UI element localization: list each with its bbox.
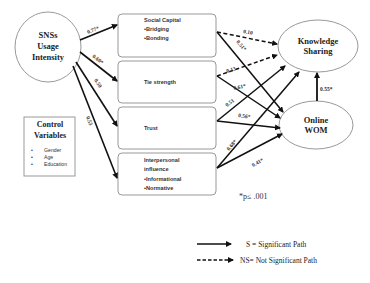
interpersonal-title-line1: Interpersonal [144,157,180,163]
box-trust: Trust [118,107,216,149]
control-item-age: Age [44,154,53,160]
interpersonal-title-line2: influence [144,166,169,172]
control-item-education: Education [44,161,67,167]
coefs-snss: 0.77* 0.60* 0.50 0.53 [85,25,105,127]
node-online-wom: Online WOM [279,101,353,149]
interpersonal-normative: •Normative [144,185,173,191]
coef-tie-strength-knowledge: 0.13 [225,65,236,74]
control-bullet: • [31,161,33,167]
coef-snss-tie-strength: 0.60* [91,53,105,66]
control-bullet: • [31,154,33,160]
path-interpersonal-wom [217,134,282,168]
box-social-capital: Social Capital •Bridging •Bonding [118,14,216,57]
control-bullet: • [31,147,33,153]
box-tie-strength: Tie strength [118,61,216,103]
legend: S = Significant Path NS= Not Significant… [197,240,317,265]
box-control-variables: Control Variables • Gender • Age • Educa… [24,117,75,176]
coef-social-capital-knowledge: 0.10 [243,28,254,36]
significance-note: *p≤ .001 [239,192,267,201]
social-capital-title: Social Capital [144,17,181,23]
node-snss-usage-intensity: SNSs Usage Intensity [15,12,81,82]
interpersonal-informational: •Informational [144,176,182,182]
social-capital-bridging: •Bridging [144,26,170,32]
coef-snss-trust: 0.50 [93,77,103,89]
snss-label-line2: Usage [37,41,59,51]
legend-significant-label: S = Significant Path [246,240,307,249]
snss-label-line3: Intensity [32,52,65,62]
online-wom-line2: WOM [304,125,327,135]
trust-title: Trust [144,125,158,131]
knowledge-sharing-line2: Sharing [304,46,334,56]
path-trust-wom [217,121,280,128]
path-model-diagram: SNSs Usage Intensity Social Capital •Bri… [0,0,370,283]
coef-trust-knowledge: 0.51 [224,97,236,108]
box-interpersonal-influence: Interpersonal influence •Informational •… [118,153,216,195]
control-title-line2: Variables [34,131,66,140]
coef-social-capital-wom: 0.51* [235,39,248,53]
online-wom-line1: Online [304,115,329,125]
social-capital-bonding: •Bonding [144,35,169,41]
legend-not-significant-label: NS= Not Significant Path [240,256,317,265]
path-snss-trust [76,62,117,126]
coef-interpersonal-wom: 0.41* [251,157,265,168]
control-item-gender: Gender [44,147,62,153]
snss-label-line1: SNSs [39,30,59,40]
coef-trust-wom: 0.56* [238,112,251,120]
coef-wom-knowledge: 0.55* [320,86,333,92]
coef-tie-strength-wom: 0.61* [233,82,247,90]
control-title-line1: Control [37,120,64,129]
node-knowledge-sharing: Knowledge Sharing [278,20,358,72]
knowledge-sharing-line1: Knowledge [298,36,339,46]
tie-strength-title: Tie strength [144,79,176,85]
